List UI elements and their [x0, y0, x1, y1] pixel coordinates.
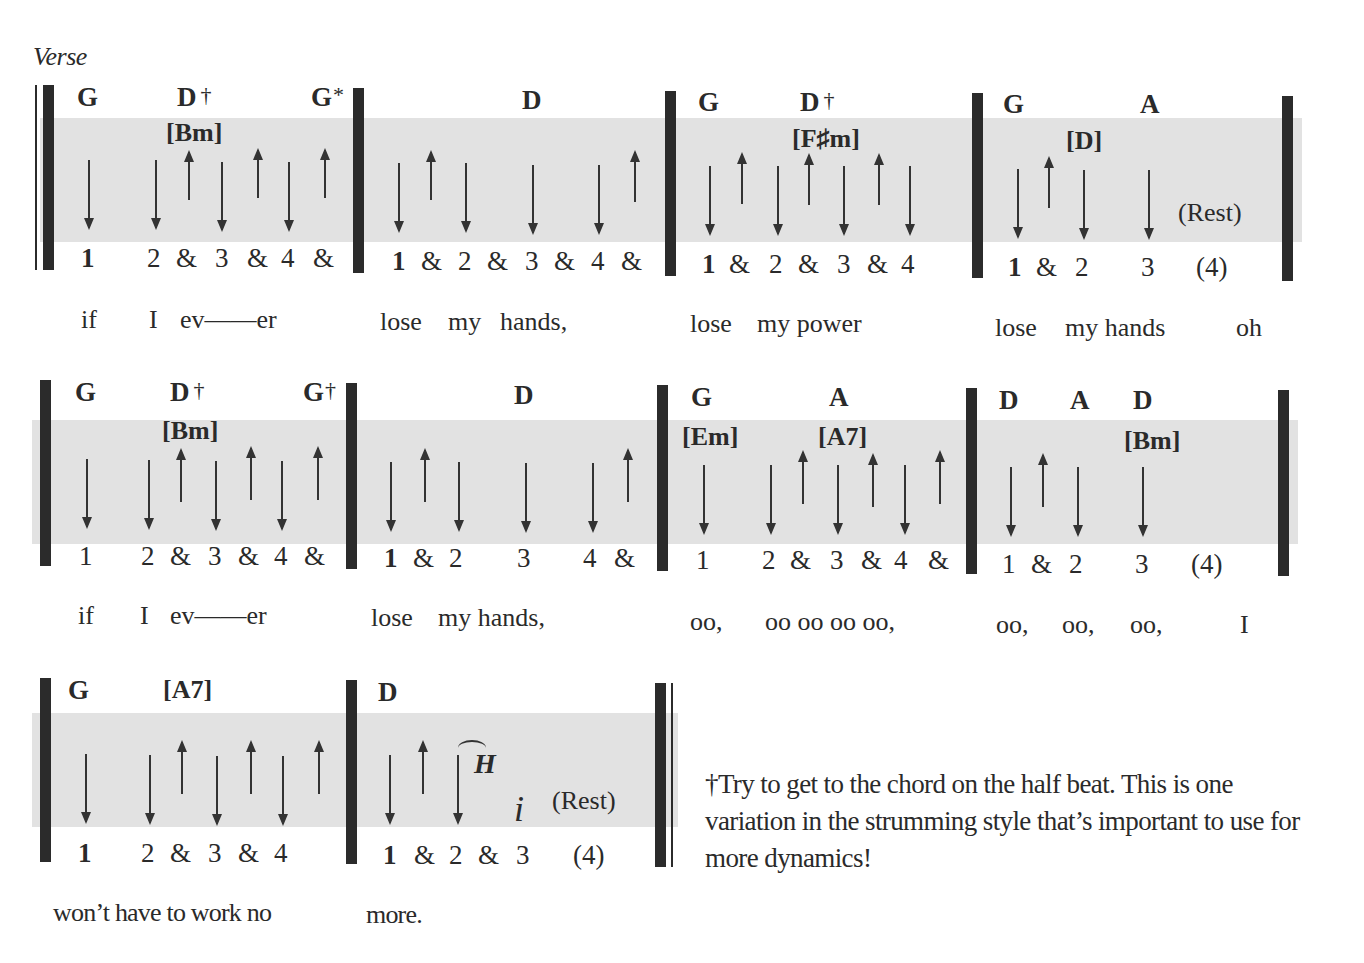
down-strum-arrow-icon: [221, 162, 223, 230]
barline: [346, 680, 357, 864]
lyric: oo,: [996, 610, 1029, 640]
chord: D: [1133, 385, 1153, 416]
chord-name: A: [1140, 89, 1160, 119]
lyric: if: [81, 305, 97, 335]
down-strum-arrow-icon: [88, 160, 90, 228]
chord: D: [378, 677, 398, 708]
beat-count: &: [861, 545, 882, 576]
footnote: †Try to get to the chord on the half bea…: [705, 766, 1305, 877]
down-strum-arrow-icon: [282, 756, 284, 824]
dagger-mark: †: [194, 377, 205, 402]
chord: G: [1003, 89, 1024, 120]
beat-count: &: [554, 246, 575, 277]
beat-count: &: [867, 249, 888, 280]
beat-count: 4: [583, 543, 597, 574]
beat-count: &: [729, 249, 750, 280]
beat-count: 3: [516, 840, 530, 871]
chord-name: D: [800, 87, 820, 117]
dagger-mark: †: [325, 377, 336, 402]
beat-count: 1: [696, 545, 710, 576]
barline: [966, 388, 977, 574]
beat-count: 2: [458, 246, 472, 277]
beat-count: 2: [762, 545, 776, 576]
beat-count: &: [170, 541, 191, 572]
beat-count: &: [238, 541, 259, 572]
beat-count: &: [478, 840, 499, 871]
down-strum-arrow-icon: [1077, 467, 1079, 535]
final-barline: [655, 683, 666, 867]
beat-count: 3: [525, 246, 539, 277]
down-strum-arrow-icon: [909, 166, 911, 234]
up-strum-arrow-icon: [1042, 455, 1044, 507]
chord-name: D: [999, 385, 1019, 415]
chord-name: G: [691, 382, 712, 412]
beat-count: 1: [1002, 549, 1016, 580]
beat-count: 2: [1069, 549, 1083, 580]
beat-count: 4: [591, 246, 605, 277]
down-strum-arrow-icon: [398, 163, 400, 231]
lyric: lose: [371, 603, 413, 633]
down-strum-arrow-icon: [86, 459, 88, 527]
up-strum-arrow-icon: [424, 450, 426, 502]
beat-count: 3: [517, 543, 531, 574]
lyric: I: [1240, 610, 1249, 640]
lyric: my power: [757, 309, 862, 339]
dagger-mark: †: [824, 87, 835, 112]
muted-symbol: i: [514, 788, 524, 830]
chord-name: G: [75, 377, 96, 407]
barline: [346, 383, 357, 569]
start-thin-barline: [35, 85, 37, 270]
lyric: lose: [995, 313, 1037, 343]
up-strum-arrow-icon: [872, 455, 874, 507]
up-strum-arrow-icon: [939, 452, 941, 504]
alt-chord: [Em]: [682, 422, 738, 452]
beat-count: 2: [141, 838, 155, 869]
chord-name: G: [303, 377, 324, 407]
chord-name: D: [378, 677, 398, 707]
beat-count: &: [413, 543, 434, 574]
beat-count: 1: [383, 840, 397, 871]
alt-chord: [Bm]: [1124, 426, 1180, 456]
beat-count: &: [487, 246, 508, 277]
lyric: won’t have to work no: [53, 898, 271, 928]
barline: [40, 380, 51, 566]
chord: D†: [177, 82, 212, 113]
lyric: oh: [1236, 313, 1262, 343]
up-strum-arrow-icon: [188, 152, 190, 200]
down-strum-arrow-icon: [148, 460, 150, 528]
down-strum-arrow-icon: [458, 462, 460, 530]
barline: [1282, 96, 1293, 281]
alt-chord: [A7]: [163, 675, 212, 705]
beat-count: 2: [449, 840, 463, 871]
chord: A: [1070, 385, 1090, 416]
rest-label: (Rest): [1178, 198, 1242, 228]
up-strum-arrow-icon: [878, 155, 880, 205]
down-strum-arrow-icon: [592, 463, 594, 531]
chord-name: G: [698, 87, 719, 117]
lyric: my: [448, 307, 481, 337]
section-label: Verse: [33, 42, 87, 72]
lyric: I: [149, 305, 158, 335]
alt-chord: [D]: [1066, 126, 1102, 156]
chord: G†: [303, 377, 336, 408]
beat-count: 2: [449, 543, 463, 574]
down-strum-arrow-icon: [525, 463, 527, 531]
up-strum-arrow-icon: [257, 150, 259, 198]
beat-count: 3: [1135, 549, 1149, 580]
down-strum-arrow-icon: [904, 465, 906, 533]
down-strum-arrow-icon: [837, 465, 839, 533]
chord: D: [522, 85, 542, 116]
chord: G: [68, 675, 89, 706]
up-strum-arrow-icon: [422, 742, 424, 794]
up-strum-arrow-icon: [250, 448, 252, 500]
chord: G: [75, 377, 96, 408]
beat-count: 2: [1075, 252, 1089, 283]
beat-count: 1: [392, 246, 406, 277]
dagger-mark: †: [201, 82, 212, 107]
chord: D†: [170, 377, 205, 408]
beat-count: 2: [769, 249, 783, 280]
beat-count: &: [421, 246, 442, 277]
lyric: my hands: [1065, 313, 1165, 343]
beat-count: &: [414, 840, 435, 871]
down-strum-arrow-icon: [709, 166, 711, 234]
